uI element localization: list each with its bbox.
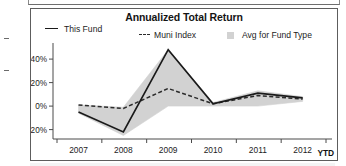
chart-title: Annualized Total Return [31,11,337,23]
y-axis-tick-labels: 40%20%0%-20% [31,55,47,135]
chart-plot-svg: 40%20%0%-20% 200720082009201020112012 [31,39,337,161]
svg-text:-20%: -20% [31,126,47,135]
scanned-page: Annualized Total Return This Fund Muni I… [0,0,346,166]
svg-text:2011: 2011 [249,145,267,155]
svg-text:2007: 2007 [69,145,88,155]
scan-artifact-tick-lower [4,70,9,71]
chart-legend: This Fund Muni Index Avg for Fund Type [31,24,337,39]
avg-fund-type-band [79,50,303,136]
scan-artifact-tick-upper [4,38,9,39]
svg-text:2009: 2009 [159,145,178,155]
chart-container: Annualized Total Return This Fund Muni I… [30,8,338,161]
svg-text:2012: 2012 [293,145,312,155]
plot-area: 40%20%0%-20% 200720082009201020112012 [31,39,337,161]
square-swatch-icon [227,32,234,39]
svg-text:0%: 0% [35,102,47,111]
legend-item-this-fund: This Fund [45,24,102,34]
scan-artifact-bottom-band [30,163,335,166]
solid-line-swatch-icon [45,28,58,29]
svg-text:40%: 40% [31,55,47,64]
svg-text:2008: 2008 [114,145,133,155]
svg-text:2010: 2010 [204,145,223,155]
svg-text:20%: 20% [31,79,47,88]
dashed-line-swatch-icon [139,34,150,35]
legend-label-this-fund: This Fund [64,24,102,34]
ytd-annotation: YTD [318,148,334,158]
x-axis-tick-labels: 200720082009201020112012 [69,145,312,155]
scan-artifact-top-rule [28,0,340,5]
